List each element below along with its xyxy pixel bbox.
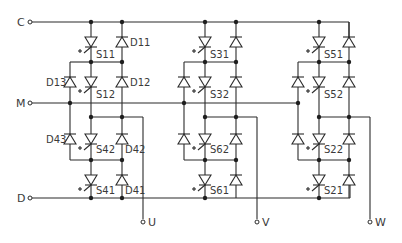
- label-s51: S51: [324, 49, 343, 60]
- label-s11: S11: [96, 49, 115, 60]
- phase-w-leg: S51 S52 S22 S21: [292, 20, 370, 219]
- label-d43: D43: [46, 134, 66, 145]
- label-s22: S22: [324, 144, 343, 155]
- label-s52: S52: [324, 89, 343, 100]
- label-s32: S32: [210, 89, 229, 100]
- label-s21: S21: [324, 185, 343, 196]
- terminal-v-label: V: [262, 216, 270, 229]
- label-s41: S41: [96, 185, 115, 196]
- label-s12: S12: [96, 89, 115, 100]
- terminal-w-label: W: [375, 216, 386, 229]
- label-d12: D12: [130, 77, 150, 88]
- terminal-m-label: M: [16, 97, 26, 110]
- bus-c: [32, 22, 349, 42]
- terminal-m: M: [16, 97, 32, 110]
- label-s62: S62: [210, 144, 229, 155]
- label-d13: D13: [46, 77, 66, 88]
- phase-u-leg: S11 D11 S12 D12 D13 D43 S42 D42 S41 D41: [46, 20, 150, 219]
- label-s31: S31: [210, 49, 229, 60]
- label-d11: D11: [130, 37, 150, 48]
- label-d41: D41: [125, 185, 145, 196]
- phase-v-leg: S31 S32 S62 S61: [178, 20, 257, 219]
- terminal-c: C: [17, 16, 32, 29]
- terminal-d: D: [17, 192, 32, 205]
- terminal-u-label: U: [148, 216, 156, 229]
- terminal-c-label: C: [17, 16, 25, 29]
- label-s61: S61: [210, 185, 229, 196]
- circuit-diagram: S11 D11 S12 D12 D13 D43 S42 D42 S41 D41: [0, 0, 402, 243]
- label-d42: D42: [125, 144, 145, 155]
- label-s42: S42: [96, 144, 115, 155]
- terminal-w: W: [368, 216, 386, 229]
- terminal-d-label: D: [17, 192, 25, 205]
